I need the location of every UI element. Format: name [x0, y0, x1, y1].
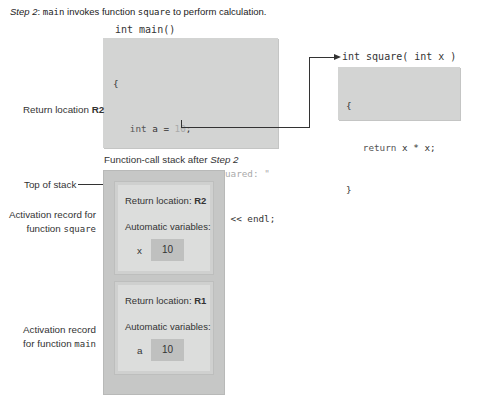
ar-main-line1: Activation record [0, 323, 96, 337]
frame-return-label: Return location: [125, 195, 194, 206]
frame-inner: Return location: R2 Automatic variables:… [118, 185, 210, 271]
frame-auto-vars-label: Automatic variables: [125, 221, 211, 232]
arrowhead-icon [334, 54, 341, 60]
square-signature: int square( int x ) [342, 51, 456, 62]
stack-title-step: Step 2 [210, 154, 238, 165]
stack-title: Function-call stack after Step 2 [104, 154, 239, 165]
return-location-label: Return location R2 [23, 104, 104, 115]
top-of-stack-arrow-line [78, 184, 106, 185]
code-line: int a = 10; [113, 121, 275, 136]
caption-step: Step 2 [10, 6, 37, 17]
caption-tail: to perform calculation. [170, 6, 266, 17]
square-code: { return x * x; } [346, 71, 436, 225]
main-code-box: { int a = 10; cout << a << " squared: " … [103, 38, 278, 148]
frame-return-value: R1 [194, 295, 206, 306]
ar-main-prefix: for function [23, 338, 74, 349]
ar-main-fn: main [74, 339, 96, 349]
caption-middle: invokes function [64, 6, 137, 17]
activation-record-main-label: Activation record for function main [0, 323, 96, 351]
code-line: } [346, 183, 436, 197]
frame-var-name: x [137, 245, 142, 256]
activation-record-square-label: Activation record for function square [0, 208, 96, 236]
frame-var-name: a [137, 345, 142, 356]
ar-square-line1: Activation record for [0, 208, 96, 222]
frame-auto-vars-label: Automatic variables: [125, 321, 211, 332]
code-line: return x * x; [346, 141, 436, 155]
frame-return-location: Return location: R2 [125, 195, 206, 206]
call-arrow-top [309, 57, 335, 58]
caption-fn-square: square [138, 7, 171, 17]
caption-fn-main: main [43, 7, 65, 17]
square-code-box: { return x * x; } [338, 67, 460, 120]
figure-caption: Step 2: main invokes function square to … [10, 6, 266, 17]
ar-square-prefix: function [26, 223, 63, 234]
ar-main-line2: for function main [0, 337, 96, 351]
code-line: { [346, 99, 436, 113]
ar-square-line2: function square [0, 222, 96, 236]
frame-var-value: 10 [151, 339, 184, 361]
frame-return-location: Return location: R1 [125, 295, 206, 306]
frame-inner: Return location: R1 Automatic variables:… [118, 285, 210, 371]
return-location-prefix: Return location [23, 104, 92, 115]
return-location-value: R2 [92, 104, 105, 115]
call-arrow-vertical [309, 57, 310, 128]
frame-return-value: R2 [194, 195, 206, 206]
call-arrow-bottom [181, 127, 310, 128]
code-line: { [113, 76, 275, 91]
activation-record-main: Return location: R1 Automatic variables:… [114, 281, 214, 375]
function-call-stack: Return location: R2 Automatic variables:… [103, 170, 225, 395]
frame-var-value: 10 [151, 239, 184, 261]
main-signature: int main() [115, 24, 175, 35]
top-of-stack-label: Top of stack [24, 179, 76, 190]
frame-return-label: Return location: [125, 295, 194, 306]
ar-square-fn: square [63, 224, 96, 234]
activation-record-square: Return location: R2 Automatic variables:… [114, 181, 214, 275]
stack-title-prefix: Function-call stack after [104, 154, 210, 165]
